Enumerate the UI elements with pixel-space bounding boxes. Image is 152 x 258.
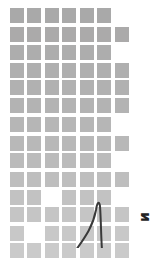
grid-square [45,27,59,42]
grid-square [97,98,111,113]
grid-square [80,98,94,113]
grid-square [97,80,111,95]
grid-square [115,27,129,42]
grid-square [45,45,59,60]
grid-square [10,80,24,95]
grid-square [62,63,76,78]
grid-square [97,243,111,258]
grid-square [27,190,41,205]
grid-square [27,207,41,222]
grid-square [10,27,24,42]
grid-square [27,153,41,168]
grid-square [45,117,59,132]
grid-square [62,153,76,168]
grid-square [62,172,76,187]
grid-square [10,172,24,187]
grid-square [45,8,59,23]
grid-square [10,45,24,60]
grid-square [27,63,41,78]
grid-square [10,8,24,23]
grid-square [45,80,59,95]
grid-square [80,136,94,151]
grid-square [80,190,94,205]
grid-square [10,153,24,168]
grid-square [27,45,41,60]
grid-square [97,45,111,60]
grid-square [115,63,129,78]
grid-square [62,98,76,113]
grid-square [10,63,24,78]
grid-square [80,207,94,222]
grid-square [45,172,59,187]
grid-square [97,136,111,151]
grid-square [45,243,59,258]
grid-square [115,98,129,113]
grid-square [80,45,94,60]
grid-square [115,207,129,222]
grid-square [97,226,111,241]
grid-square [80,226,94,241]
grid-square [97,153,111,168]
grid-square [115,243,129,258]
grid-square [45,153,59,168]
grid-square [62,80,76,95]
grid-square [62,207,76,222]
grid-square [27,27,41,42]
grid-square [115,136,129,151]
grid-square [27,98,41,113]
grid-square [62,45,76,60]
grid-square [80,8,94,23]
grid-square [27,117,41,132]
grid-square [10,207,24,222]
grid-square [62,27,76,42]
grid-square [10,226,24,241]
grid-square [80,153,94,168]
grid-square [80,27,94,42]
grid-square [45,136,59,151]
grid-square [115,80,129,95]
grid-square [27,8,41,23]
grid-square [62,136,76,151]
grid-square [115,172,129,187]
grid-square [80,80,94,95]
grid-square [80,117,94,132]
grid-square [62,190,76,205]
grid-square [97,27,111,42]
grid-square [62,226,76,241]
grid-square [10,117,24,132]
grid-square [115,226,129,241]
grid-square [97,63,111,78]
grid-square [10,136,24,151]
grid-square [10,190,24,205]
grid-square [80,243,94,258]
grid-square [27,136,41,151]
grid-square [97,8,111,23]
grid-square [62,8,76,23]
grid-square [62,117,76,132]
grid-square [80,172,94,187]
grid-square [97,117,111,132]
grid-square [97,190,111,205]
grid-square [97,207,111,222]
grid-square [45,207,59,222]
cropped-edge-text: ᴎ [136,212,152,222]
grid-square [80,63,94,78]
grid-square [27,172,41,187]
grid-square [27,243,41,258]
grid-square [27,80,41,95]
grid-square [10,243,24,258]
grid-square [45,226,59,241]
grid-square [97,172,111,187]
grid-square [45,63,59,78]
grid-square [62,243,76,258]
grid-square [45,98,59,113]
grid-square [10,98,24,113]
